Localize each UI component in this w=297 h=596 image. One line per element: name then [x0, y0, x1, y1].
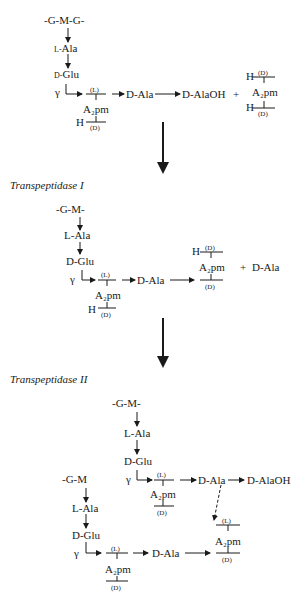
chain-b-backbone: -G-M	[62, 473, 87, 485]
free-a2pm: A₂pm	[252, 86, 278, 98]
chain-a-a2pm: A₂pm	[150, 488, 176, 500]
step1-gamma: γ	[70, 273, 75, 285]
free-d-top: (D)	[258, 69, 268, 77]
chain-a-l-label: (L)	[157, 471, 166, 479]
step1-plus: +	[240, 261, 246, 273]
step1-d-glu: D-Glu	[66, 255, 94, 267]
step1-d-ala: D-Ala	[137, 274, 165, 286]
l-label: (L)	[90, 86, 99, 94]
chain-a-d-label: (D)	[157, 509, 167, 517]
chain-b-target-l: (L)	[222, 517, 231, 525]
free-h-bottom: H	[246, 101, 254, 113]
a2pm-label: A₂pm	[83, 103, 109, 115]
step1-product-a2pm: A₂pm	[199, 261, 225, 273]
step1-product-d-top: (D)	[205, 244, 215, 252]
step1-backbone: -G-M-	[56, 203, 85, 215]
l-prefix: L-	[54, 45, 62, 54]
ala-label: Ala	[62, 42, 78, 54]
step1-released-d-ala: D-Ala	[252, 261, 280, 273]
h-label: H	[76, 116, 84, 128]
step1-h: H	[88, 303, 96, 315]
free-h-top: H	[246, 70, 254, 82]
chain-b-gamma: γ	[74, 547, 79, 559]
chain-b-d-label: (D)	[111, 584, 121, 592]
step1-product-d-bottom: (D)	[205, 283, 215, 291]
chain-a-d-alaoh: D-AlaOH	[247, 474, 290, 486]
chain-a-d-glu: D-Glu	[124, 455, 152, 467]
d-label: (D)	[90, 124, 100, 132]
glu-label: Glu	[62, 68, 79, 80]
step1-l-ala: L-Ala	[64, 229, 90, 241]
substrate-l-ala: L-Ala	[54, 42, 77, 56]
chain-b-d-glu: D-Glu	[72, 529, 100, 541]
chain-b-l-ala: L-Ala	[72, 502, 98, 514]
substrate-backbone: -G-M-G-	[44, 14, 84, 26]
chain-a-d-ala: D-Ala	[198, 474, 226, 486]
substrate-d-glu: D-Glu	[54, 68, 79, 82]
step1-d-label: (D)	[101, 311, 111, 319]
chain-b-a2pm: A₂pm	[105, 563, 131, 575]
d-ala-label: D-Ala	[126, 88, 154, 100]
transpeptidase-2-title: Transpeptidase II	[10, 373, 87, 385]
free-d-bottom: (D)	[258, 110, 268, 118]
chain-b-target-d: (D)	[222, 556, 232, 564]
step1-product-h: H	[192, 245, 200, 257]
d-alaoh-label: D-AlaOH	[182, 88, 225, 100]
step1-a2pm: A₂pm	[95, 289, 121, 301]
chain-a-gamma: γ	[126, 473, 131, 485]
gamma-label: γ	[55, 86, 60, 98]
transpeptidase-1-title: Transpeptidase I	[10, 179, 84, 191]
chain-b-target-a2pm: A₂pm	[215, 535, 241, 547]
chain-b-l-label: (L)	[111, 545, 120, 553]
chain-a-l-ala: L-Ala	[124, 427, 150, 439]
plus-sign: +	[233, 88, 239, 100]
step1-l-label: (L)	[101, 271, 110, 279]
chain-a-backbone: -G-M-	[112, 397, 141, 409]
chain-b-d-ala: D-Ala	[152, 547, 180, 559]
